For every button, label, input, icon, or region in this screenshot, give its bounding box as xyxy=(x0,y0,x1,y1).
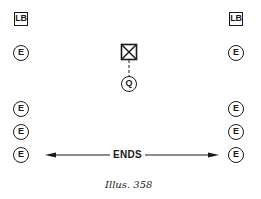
lb-box-right: LB xyxy=(229,12,243,26)
e-circle-right-3: E xyxy=(228,124,244,140)
e-circle-right-1: E xyxy=(228,45,244,61)
e-circle-left-2: E xyxy=(13,101,29,117)
e-circle-left-4: E xyxy=(13,147,29,163)
ends-label: ENDS xyxy=(110,149,145,161)
q-circle-center: Q xyxy=(121,76,137,92)
e-circle-left-1: E xyxy=(13,45,29,61)
figure-caption: Illus. 358 xyxy=(105,179,152,191)
diagram-lines xyxy=(0,0,261,199)
e-circle-left-3: E xyxy=(13,124,29,140)
e-circle-right-2: E xyxy=(228,101,244,117)
e-circle-right-4: E xyxy=(228,147,244,163)
lb-box-left: LB xyxy=(14,12,28,26)
center-x-box xyxy=(122,45,137,60)
